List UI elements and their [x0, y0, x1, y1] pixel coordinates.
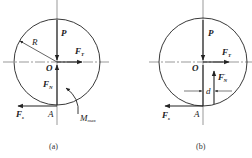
label-O: O [192, 63, 199, 73]
label-Fs: Fs [15, 109, 24, 120]
label-FN: FN [42, 79, 53, 90]
radius-line [20, 41, 57, 62]
label-Fs: Fs [161, 110, 170, 121]
label-Mmax: Mmax [79, 113, 97, 123]
caption-b: (b) [196, 142, 206, 151]
diagram-canvas: P FT O R FN Fs A Mmax (a) P FT O F′N d F… [0, 0, 252, 158]
figure-b: P FT O F′N d Fs A (b) [149, 0, 252, 151]
label-P: P [208, 28, 214, 38]
label-A: A [47, 109, 54, 119]
label-O: O [46, 63, 53, 73]
label-P: P [61, 28, 67, 38]
moment-arrow [66, 88, 78, 114]
caption-a: (a) [49, 142, 58, 151]
label-d: d [206, 86, 211, 96]
label-R: R [31, 37, 38, 47]
label-FT: FT [74, 46, 85, 57]
label-FN-prime: F′N [217, 72, 227, 83]
label-A: A [193, 109, 200, 119]
figure-a: P FT O R FN Fs A Mmax (a) [3, 0, 110, 151]
label-FT: FT [221, 47, 232, 58]
